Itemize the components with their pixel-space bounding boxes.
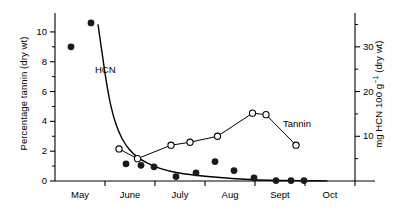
- tannin-line: [119, 113, 296, 158]
- hcn-data-point: [173, 173, 180, 180]
- ticks-group: [50, 24, 360, 186]
- y-axis-left-tick-label: 4: [17, 115, 47, 126]
- tannin-data-point: [249, 110, 255, 116]
- series-group: [68, 20, 328, 184]
- y-axis-left-tick-label: 2: [17, 145, 47, 156]
- hcn-data-point: [301, 177, 308, 184]
- tannin-data-point: [116, 146, 122, 152]
- x-axis-tick-label: May: [55, 189, 105, 200]
- hcn-data-point: [251, 175, 258, 182]
- tannin-data-point: [263, 112, 269, 118]
- hcn-data-point: [193, 169, 200, 176]
- hcn-data-point: [88, 20, 95, 27]
- hcn-data-point: [288, 177, 295, 184]
- tannin-data-point: [168, 142, 174, 148]
- series-annotation-tannin: Tannin: [283, 118, 311, 129]
- hcn-curve: [98, 24, 328, 180]
- tannin-data-point: [134, 156, 140, 162]
- hcn-data-point: [138, 162, 145, 169]
- x-axis-tick-label: June: [105, 189, 155, 200]
- y-axis-left-tick-label: 10: [17, 26, 47, 37]
- tannin-data-point: [187, 139, 193, 145]
- hcn-data-point: [273, 177, 280, 184]
- hcn-data-point: [151, 163, 158, 170]
- tannin-hcn-chart: Percentage tannin (dry wt) mg HCN 100 g−…: [0, 0, 407, 216]
- series-annotation-hcn: HCN: [95, 64, 116, 75]
- x-axis-tick-label: July: [155, 189, 205, 200]
- y-axis-right-tick-label: 30: [363, 41, 387, 52]
- y-axis-left-tick-label: 8: [17, 56, 47, 67]
- hcn-data-point: [212, 158, 219, 165]
- x-axis-tick-label: Sept: [255, 189, 305, 200]
- tannin-data-point: [293, 142, 299, 148]
- x-axis-tick-label: Oct: [305, 189, 355, 200]
- tannin-data-point: [214, 133, 220, 139]
- y-axis-right-tick-label: 20: [363, 86, 387, 97]
- axes-group: [55, 13, 375, 181]
- y-axis-left-tick-label: 6: [17, 86, 47, 97]
- chart-plot-area: [0, 0, 407, 216]
- x-axis-tick-label: Aug: [205, 189, 255, 200]
- hcn-data-point: [123, 160, 130, 167]
- y-axis-right-tick-label: 10: [363, 130, 387, 141]
- hcn-data-point: [231, 167, 238, 174]
- hcn-data-point: [68, 43, 75, 50]
- y-axis-left-tick-label: 0: [17, 175, 47, 186]
